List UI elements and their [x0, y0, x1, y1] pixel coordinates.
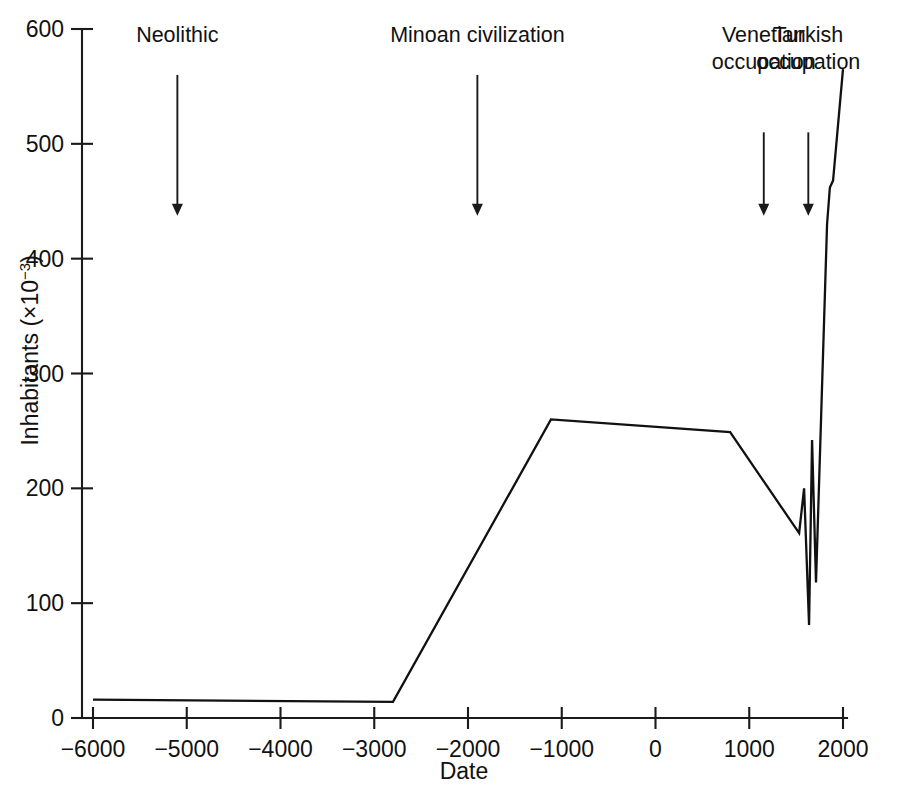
annotation-arrow-head — [758, 204, 769, 216]
annotation-neolithic: Neolithic — [136, 23, 219, 216]
x-tick-label: 1000 — [724, 736, 775, 762]
y-axis-title-container: Inhabitants (×10−3) — [0, 0, 38, 789]
annotation-arrow-head — [172, 204, 183, 216]
chart-figure: Inhabitants (×10−3) −6000−5000−4000−3000… — [0, 0, 899, 789]
annotation-label: occupation — [756, 50, 860, 74]
annotation-group: NeolithicMinoan civilizationVenetianoccu… — [136, 23, 860, 216]
annotation-label: Neolithic — [136, 23, 219, 47]
data-line-population-of-crete — [93, 69, 843, 702]
plot-area: −6000−5000−4000−3000−2000−1000010002000 … — [0, 0, 899, 789]
annotation-turkish-occupation: Turkishoccupation — [756, 23, 860, 216]
x-tick-label: −6000 — [61, 736, 126, 762]
y-axis-title-text: Inhabitants — [17, 333, 43, 446]
annotation-arrow-head — [803, 204, 814, 216]
y-axis-title-exponent-prefix: (×10 — [17, 280, 43, 327]
y-tick-label: 0 — [51, 705, 64, 731]
annotation-label: Turkish — [773, 23, 843, 47]
x-tick-label: 0 — [649, 736, 662, 762]
y-axis-title-exponent: −3 — [16, 263, 33, 280]
x-axis-title: Date — [440, 758, 489, 784]
annotation-label: Minoan civilization — [390, 23, 564, 47]
y-axis-title-suffix: ) — [17, 255, 43, 263]
annotation-minoan-civilization: Minoan civilization — [390, 23, 564, 216]
x-tick-label: −5000 — [154, 736, 219, 762]
x-tick-label: −4000 — [248, 736, 313, 762]
x-tick-label: −3000 — [342, 736, 407, 762]
annotation-arrow-head — [472, 204, 483, 216]
x-tick-label: 2000 — [817, 736, 868, 762]
y-axis-title: Inhabitants (×10−3) — [16, 200, 45, 500]
x-tick-label: −1000 — [529, 736, 594, 762]
